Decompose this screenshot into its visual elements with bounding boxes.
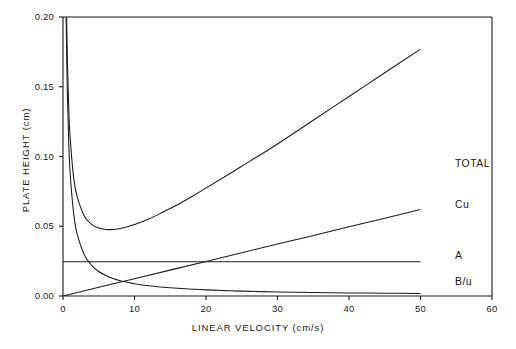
curve-label-total: TOTAL — [455, 157, 490, 169]
x-tick-marks — [63, 296, 492, 300]
x-tick-label: 30 — [258, 303, 298, 314]
van-deemter-chart: 0.000.050.100.150.20 0102030405060 TOTAL… — [0, 0, 516, 349]
y-tick-label: 0.20 — [0, 11, 54, 22]
curve-label-a: A — [455, 249, 462, 261]
x-tick-label: 40 — [329, 303, 369, 314]
series-line-cu — [63, 210, 421, 296]
y-tick-marks — [59, 17, 63, 296]
x-tick-label: 20 — [186, 303, 226, 314]
plot-canvas — [0, 0, 516, 349]
x-tick-label: 0 — [43, 303, 83, 314]
data-series-group — [63, 0, 421, 296]
x-axis-title: LINEAR VELOCITY (cm/s) — [0, 322, 516, 333]
x-tick-label: 50 — [401, 303, 441, 314]
plot-frame — [63, 17, 492, 296]
series-line-total — [66, 0, 420, 230]
x-tick-label: 60 — [472, 303, 512, 314]
curve-label-b-u: B/u — [455, 275, 472, 287]
x-tick-label: 10 — [115, 303, 155, 314]
y-axis-title: PLATE HEIGHT (cm) — [20, 50, 31, 270]
curve-label-cu: Cu — [455, 198, 469, 210]
y-tick-label: 0.00 — [0, 290, 54, 301]
